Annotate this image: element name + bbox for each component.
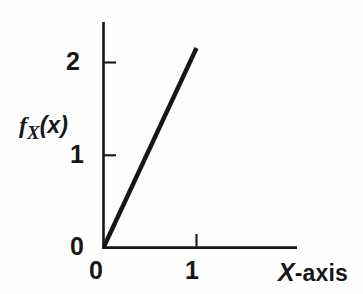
y-axis-label: fX(x) [19, 113, 68, 142]
chart-canvas [0, 0, 363, 294]
x-tick-label-1: 1 [185, 258, 199, 283]
pdf-line-chart-figure: 2 1 0 0 1 fX(x) X-axis [0, 0, 363, 294]
x-axis-label: X-axis [278, 260, 348, 285]
y-tick-label-2: 2 [66, 49, 80, 74]
y-axis-label-argument: (x) [40, 112, 68, 138]
x-axis-label-variable: X [278, 258, 295, 286]
x-axis-label-suffix: -axis [295, 260, 348, 286]
x-tick-label-0: 0 [89, 258, 103, 283]
y-tick-label-1: 1 [70, 142, 84, 167]
y-axis-label-function: f [19, 112, 27, 138]
y-tick-label-0: 0 [70, 234, 84, 259]
density-line-series [104, 48, 197, 247]
y-axis-label-subscript: X [27, 122, 40, 143]
